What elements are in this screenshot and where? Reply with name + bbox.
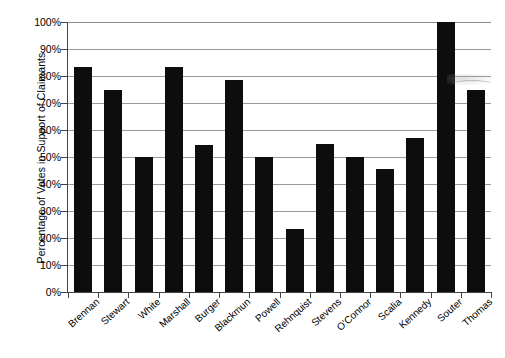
bar xyxy=(74,67,92,292)
bar xyxy=(376,169,394,292)
bar xyxy=(346,157,364,292)
y-tick-label: 10% xyxy=(21,259,61,271)
x-tick-label: Marshall xyxy=(157,296,192,329)
x-tick-label-text: Marshall xyxy=(157,296,192,329)
y-tick-label: 0% xyxy=(21,286,61,298)
bar xyxy=(135,157,153,292)
x-axis-labels: BrennanStewartWhiteMarshallBurgerBlackmu… xyxy=(67,296,490,358)
x-tick-label: Thomas xyxy=(460,296,494,328)
bar xyxy=(286,229,304,292)
gridline xyxy=(68,130,491,131)
bar xyxy=(437,22,455,292)
bar xyxy=(165,67,183,292)
gridline xyxy=(68,157,491,158)
y-tick-label: 50% xyxy=(21,151,61,163)
gridline xyxy=(68,238,491,239)
x-tick-label: Brennan xyxy=(66,296,101,329)
y-tick-label: 70% xyxy=(21,97,61,109)
bar xyxy=(225,80,243,292)
x-tick-label: White xyxy=(136,296,162,321)
gridline xyxy=(68,49,491,50)
gridline xyxy=(68,76,491,77)
y-tick-label: 20% xyxy=(21,232,61,244)
bar xyxy=(104,90,122,293)
y-tick-label: 60% xyxy=(21,124,61,136)
y-tick-label: 100% xyxy=(21,16,61,28)
x-tick-label-text: Stewart xyxy=(99,296,132,327)
x-tick-label-text: White xyxy=(136,296,162,321)
bar-chart-figure: Percentage of Votes in Support of Claima… xyxy=(0,0,505,358)
gridline xyxy=(68,265,491,266)
bar xyxy=(255,157,273,292)
bar xyxy=(316,144,334,293)
bar xyxy=(195,145,213,292)
y-tick-label: 40% xyxy=(21,178,61,190)
x-tick-mark xyxy=(491,292,492,298)
plot-area xyxy=(67,22,491,293)
gridline xyxy=(68,184,491,185)
x-tick-label: Stewart xyxy=(99,296,132,327)
y-tick-label: 80% xyxy=(21,70,61,82)
x-tick-label: Kennedy xyxy=(397,296,434,331)
y-axis-ticks: 0%10%20%30%40%50%60%70%80%90%100% xyxy=(0,22,61,292)
y-tick-label: 30% xyxy=(21,205,61,217)
gridline xyxy=(68,22,491,23)
bar xyxy=(406,138,424,292)
x-tick-label-text: Thomas xyxy=(460,296,494,328)
bar xyxy=(467,90,485,293)
x-tick-label-text: Kennedy xyxy=(397,296,434,331)
gridline xyxy=(68,103,491,104)
y-tick-label: 90% xyxy=(21,43,61,55)
gridline xyxy=(68,211,491,212)
x-tick-label-text: Brennan xyxy=(66,296,101,329)
